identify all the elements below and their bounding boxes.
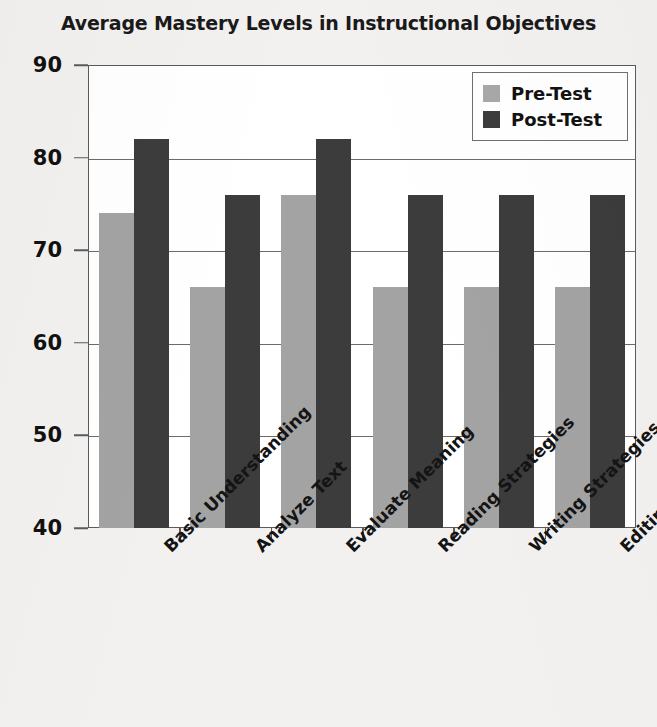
x-axis-label-0: Basic Understanding [160,542,174,556]
y-tick-label-80: 80 [33,146,62,170]
y-tick-mark-70 [74,249,88,251]
legend-label-post-test: Post-Test [511,109,602,130]
x-axis-label-4: Writing Strategies [525,542,539,556]
y-tick-label-90: 90 [33,53,62,77]
gridline-70 [89,251,635,252]
gridline-80 [89,159,635,160]
chart-legend: Pre-Test Post-Test [472,72,628,141]
y-tick-label-70: 70 [33,238,62,262]
legend-label-pre-test: Pre-Test [511,83,592,104]
y-tick-mark-50 [74,435,88,437]
x-axis-labels: Basic UnderstandingAnalyze TextEvaluate … [0,528,657,727]
chart-title: Average Mastery Levels in Instructional … [0,12,657,34]
legend-item-post-test: Post-Test [483,106,617,132]
x-axis-label-1: Analyze Text [251,542,265,556]
x-axis-label-2: Evaluate Meaning [342,542,356,556]
legend-swatch-pre-test-icon [483,85,500,102]
gridline-60 [89,344,635,345]
y-tick-mark-60 [74,342,88,344]
legend-swatch-post-test-icon [483,111,500,128]
y-tick-mark-80 [74,157,88,159]
y-axis: 908070605040 [0,65,88,528]
y-tick-label-50: 50 [33,423,62,447]
y-tick-label-60: 60 [33,331,62,355]
legend-item-pre-test: Pre-Test [483,80,617,106]
x-axis-label-5: Editing Skills [616,542,630,556]
x-axis-label-3: Reading Strategies [434,542,448,556]
y-tick-mark-90 [74,64,88,66]
